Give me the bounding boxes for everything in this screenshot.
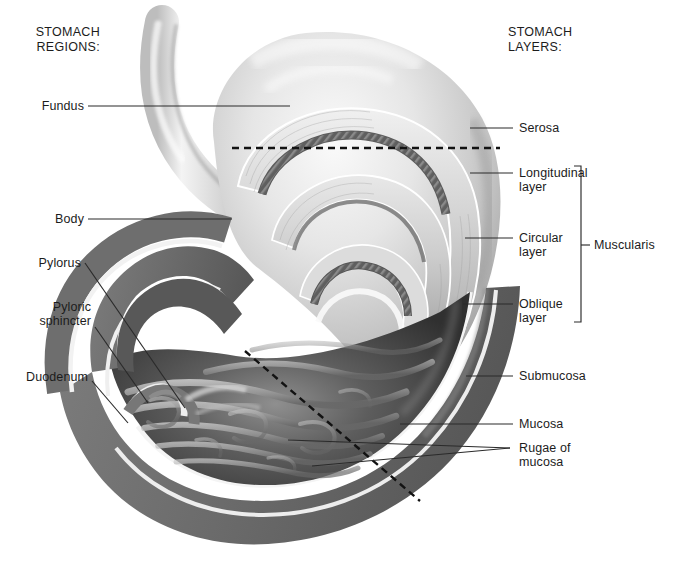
label-serosa: Serosa (519, 121, 559, 135)
label-muscularis: Muscularis (594, 238, 655, 252)
label-longitudinal-layer: Longitudinal layer (519, 166, 588, 194)
label-duodenum: Duodenum (0, 370, 88, 384)
label-oblique-layer: Oblique layer (519, 297, 563, 325)
label-circular-layer: Circular layer (519, 231, 563, 259)
stomach-regions-heading: STOMACH REGIONS: (20, 25, 100, 55)
stomach-layers-heading: STOMACH LAYERS: (508, 25, 572, 55)
label-fundus: Fundus (0, 99, 84, 113)
label-mucosa: Mucosa (519, 417, 563, 431)
stomach-diagram: STOMACH REGIONS: STOMACH LAYERS: Fundus … (0, 0, 678, 561)
label-pylorus: Pylorus (0, 256, 81, 270)
label-body: Body (0, 212, 84, 226)
label-rugae-of-mucosa: Rugae of mucosa (519, 441, 571, 469)
label-submucosa: Submucosa (519, 369, 586, 383)
label-pyloric-sphincter: Pyloric sphincter (0, 300, 91, 328)
stomach-illustration (0, 0, 678, 561)
